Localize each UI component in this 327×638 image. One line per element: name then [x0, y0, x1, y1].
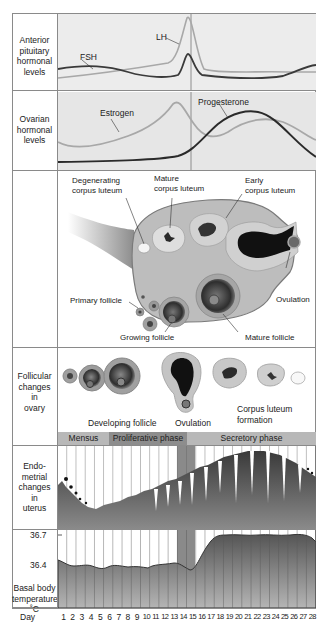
phase-proliferative: Proliferative phase [109, 432, 187, 445]
label-line: Ovarian [12, 114, 57, 125]
primary-follicle [141, 295, 145, 299]
label-line: in [12, 392, 57, 403]
follicular-panel: Developing follicle Ovulation Corpus lut… [58, 348, 316, 432]
label-line: hormonal [12, 56, 57, 67]
growing-follicle-label: Growing follicle [120, 333, 175, 342]
label-line: pituitary [12, 46, 57, 57]
label-line: Follicular [12, 371, 57, 382]
ovarian-ligament [68, 212, 134, 270]
ovarian-chart: Estrogen Progesterone [58, 92, 316, 170]
mature-follicle-label: Mature follicle [245, 333, 295, 342]
progesterone-label: Progesterone [198, 97, 249, 107]
phase-mensus: Mensus [58, 432, 109, 445]
corpus-luteum-caption: formation [237, 415, 273, 425]
estrogen-label: Estrogen [100, 108, 134, 118]
label-line: Anterior [12, 35, 57, 46]
early-corpus-luteum-label: Early [245, 176, 263, 185]
degenerating-corpus-luteum-label: corpus luteum [72, 186, 123, 195]
ovulation-label: Ovulation [276, 295, 310, 304]
label-line: ovary [12, 403, 57, 414]
mature-corpus-luteum-label: Mature [154, 174, 179, 183]
ovary-illustration: Degenerating corpus luteum Mature corpus… [58, 172, 316, 347]
developing-follicle-caption: Developing follicle [88, 418, 157, 428]
ovarian-label: Ovarian hormonal levels [12, 114, 57, 146]
label-line: hormonal [12, 125, 57, 136]
progesterone-curve [58, 111, 316, 162]
primary-follicle-label: Primary follicle [70, 296, 123, 305]
day-label: 28 [307, 612, 317, 621]
degenerating-corpus-luteum [138, 243, 150, 253]
label-line: changes [12, 382, 57, 393]
lh-curve [58, 17, 316, 78]
corpus-albicans [291, 372, 305, 384]
mature-corpus-luteum-label: corpus luteum [154, 184, 205, 193]
lh-label: LH [156, 32, 167, 42]
phase-secretory: Secretory phase [187, 432, 316, 445]
early-corpus-luteum-label: corpus luteum [245, 186, 296, 195]
degenerating-corpus-luteum-label: Degenerating [72, 176, 120, 185]
estrogen-curve [58, 102, 316, 146]
corpus-luteum-caption: Corpus luteum [237, 404, 292, 414]
pituitary-label: Anterior pituitary hormonal levels [12, 35, 57, 77]
day-axis-label: Day [20, 612, 35, 622]
released-oocyte [288, 236, 300, 248]
cycle-phase-bar: Mensus Proliferative phase Secretory pha… [58, 432, 316, 445]
fsh-label: FSH [80, 52, 97, 62]
pituitary-chart: LH FSH [58, 14, 316, 90]
follicular-label: Follicular changes in ovary [12, 371, 57, 413]
label-column-divider [57, 13, 58, 608]
label-line: levels [12, 67, 57, 78]
ovulation-caption: Ovulation [175, 418, 211, 428]
label-line: levels [12, 135, 57, 146]
